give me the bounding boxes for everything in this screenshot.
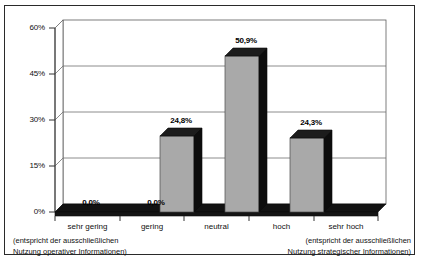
y-tick-label-45: 45% [19,69,45,78]
bar-hoch [225,48,267,212]
annotation-left-line1: (entspricht der ausschließlichen [13,235,213,246]
y-tick-label-60: 60% [19,23,45,32]
bar-sehr-hoch [290,130,332,212]
value-label-gering: 0,0% [124,198,188,207]
annotation-right: (entspricht der ausschließlichen Nutzung… [203,235,411,257]
annotation-left-line2: Nutzung operativer Informationen) [13,246,213,257]
y-tick-label-0: 0% [19,207,45,216]
chart-canvas [5,6,416,256]
y-tick-label-30: 30% [19,115,45,124]
x-label-sehr-hoch: sehr hoch [314,222,378,231]
x-label-sehr-gering: sehr gering [55,222,120,231]
chart-frame: 60% 45% 30% 15% 0% 0,0% 0,0% 24,8% 50,9%… [4,5,415,255]
x-label-neutral: neutral [184,222,249,231]
y-tick-label-15: 15% [19,161,45,170]
annotation-right-line1: (entspricht der ausschließlichen [203,235,411,246]
bar-chart: 60% 45% 30% 15% 0% 0,0% 0,0% 24,8% 50,9%… [5,6,416,256]
value-label-sehr-gering: 0,0% [59,198,123,207]
annotation-left: (entspricht der ausschließlichen Nutzung… [13,235,213,257]
value-label-hoch: 50,9% [214,36,278,45]
x-label-hoch: hoch [249,222,314,231]
y-axis [49,28,55,212]
annotation-right-line2: Nutzung strategischer Informationen) [203,246,411,257]
x-label-gering: gering [120,222,184,231]
value-label-neutral: 24,8% [149,116,213,125]
value-label-sehr-hoch: 24,3% [279,118,343,127]
x-axis-ticks [55,216,378,221]
